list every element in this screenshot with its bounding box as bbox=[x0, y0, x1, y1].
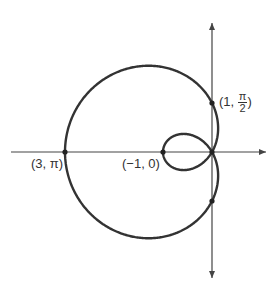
polar-diagram: (3, π) (−1, 0) (1, π2) bbox=[0, 0, 275, 283]
point-1-3pi-half bbox=[209, 198, 214, 203]
point-1-pi-half bbox=[209, 100, 214, 105]
point-origin bbox=[209, 149, 214, 154]
label-prefix: (1, bbox=[219, 94, 238, 109]
fraction-pi-over-2: π2 bbox=[238, 91, 248, 114]
point-3-pi bbox=[62, 149, 67, 154]
point-neg1-0 bbox=[160, 149, 165, 154]
label-3-pi: (3, π) bbox=[31, 156, 63, 171]
fraction-denominator: 2 bbox=[238, 103, 248, 114]
label-1-pi-half: (1, π2) bbox=[219, 91, 252, 114]
label-neg1-0: (−1, 0) bbox=[122, 156, 160, 171]
diagram-canvas bbox=[0, 0, 275, 283]
label-suffix: ) bbox=[247, 94, 251, 109]
